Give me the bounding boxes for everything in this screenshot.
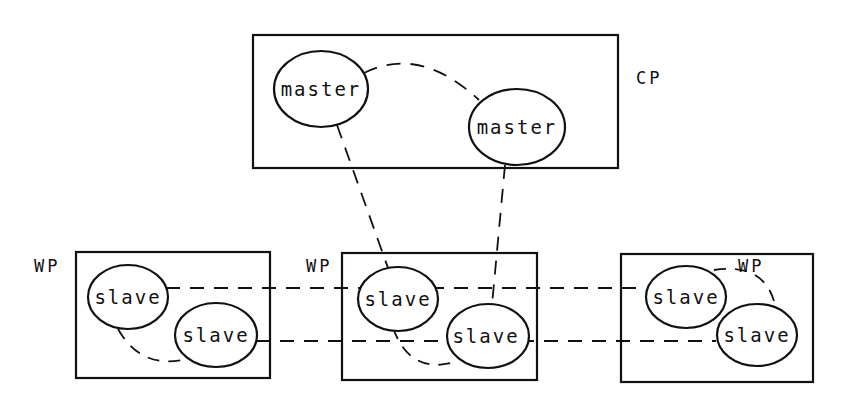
connector-master2-slave xyxy=(492,165,505,305)
wp2-label: WP xyxy=(306,256,332,276)
master-node-label: master xyxy=(281,78,362,100)
wp3-label: WP xyxy=(738,256,764,276)
cp-label: CP xyxy=(636,68,662,88)
master-node-1: master xyxy=(274,51,368,127)
connector-wp2-internal xyxy=(393,328,455,365)
processor-wp-3: WP slave slave xyxy=(621,254,813,382)
slave-node-2: slave xyxy=(717,304,797,366)
processor-cp: CP master master xyxy=(253,35,662,168)
slave-node-label: slave xyxy=(723,324,790,346)
slave-node-label: slave xyxy=(452,325,519,347)
diagram-svg: CP master master WP slave slave WP slave xyxy=(0,0,848,408)
distributed-process-diagram: CP master master WP slave slave WP slave xyxy=(0,0,848,408)
slave-node-label: slave xyxy=(364,288,431,310)
slave-node-label: slave xyxy=(182,324,249,346)
connector-master1-slave xyxy=(337,125,388,268)
slave-node-label: slave xyxy=(94,286,161,308)
wp1-label: WP xyxy=(34,256,60,276)
slave-node-2: slave xyxy=(447,304,529,368)
master-node-2: master xyxy=(469,89,565,165)
slave-node-1: slave xyxy=(646,266,726,328)
slave-node-1: slave xyxy=(358,267,438,331)
connector-wp1-internal xyxy=(118,329,182,361)
master-node-label: master xyxy=(477,116,558,138)
processor-wp-2: WP slave slave xyxy=(306,253,537,380)
slave-node-label: slave xyxy=(652,286,719,308)
slave-node-1: slave xyxy=(88,265,168,329)
slave-node-2: slave xyxy=(175,303,257,367)
connector-master-master xyxy=(364,64,479,100)
